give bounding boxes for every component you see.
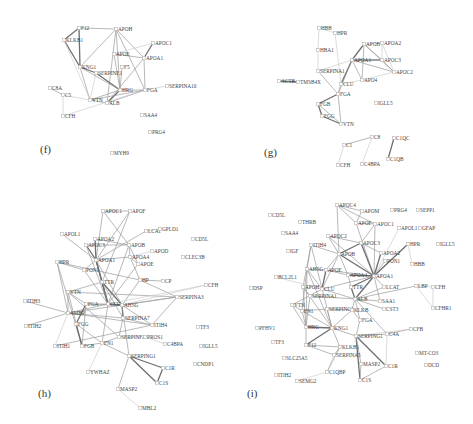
node-label-TMSB4X: TMSB4X bbox=[300, 79, 321, 85]
network-nodes-i: APOC4APOMPRG4SEPP1CD5LTHRBAPOFAPOC1APOL1… bbox=[250, 202, 456, 384]
node-label-CFHR1: CFHR1 bbox=[435, 305, 452, 311]
node-label-GFAP: GFAP bbox=[422, 225, 435, 231]
edge-SERPINA3-ITIH4 bbox=[152, 297, 177, 325]
panel-label-i: (i) bbox=[247, 387, 257, 399]
node-label-APOE: APOE bbox=[328, 267, 342, 273]
network-nodes-f: F12APOHKLKB1APOC1APOEAPOA1KNG1F5SERPINE1… bbox=[49, 25, 197, 156]
node-label-KNG1: KNG1 bbox=[82, 64, 96, 70]
node-label-CLU: CLU bbox=[343, 81, 354, 87]
protein-interaction-networks: F12APOHKLKB1APOC1APOEAPOA1KNG1F5SERPINE1… bbox=[0, 0, 473, 424]
node-label-C1S: C1S bbox=[159, 380, 168, 386]
node-label-FGA: FGA bbox=[147, 87, 158, 93]
node-label-ITIH4: ITIH4 bbox=[154, 322, 168, 328]
node-label-APOB: APOB bbox=[366, 41, 381, 47]
node-label-APOE: APOE bbox=[140, 261, 154, 267]
node-label-APOA1: APOA1 bbox=[98, 257, 115, 263]
node-label-C1S: C1S bbox=[362, 377, 371, 383]
node-label-SEPP1: SEPP1 bbox=[420, 207, 435, 213]
node-label-SAA4: SAA4 bbox=[285, 230, 299, 236]
node-label-KLKB: KLKB bbox=[354, 307, 369, 313]
node-label-APOC4: APOC4 bbox=[339, 202, 356, 208]
node-label-GPLD1: GPLD1 bbox=[162, 226, 179, 232]
edge-APOB-CLU bbox=[108, 245, 129, 304]
edges-layer bbox=[25, 28, 433, 408]
node-label-SERPINF2: SERPINF2 bbox=[121, 334, 145, 340]
node-label-FN1: FN1 bbox=[304, 308, 314, 314]
node-label-FGA: FGA bbox=[88, 301, 99, 307]
node-label-PON1: PON1 bbox=[387, 258, 401, 264]
node-label-C4BPA: C4BPA bbox=[364, 161, 380, 167]
node-label-FN1: FN1 bbox=[104, 340, 114, 346]
edge-APOC4-APOB bbox=[337, 205, 339, 254]
node-label-C1: C1 bbox=[346, 142, 353, 148]
node-label-ITIH4: ITIH4 bbox=[313, 242, 327, 248]
network-nodes-g: HBBHPRAPOBAPOA2HBA1APOA1APOC3APOC2SERPIN… bbox=[278, 25, 414, 168]
panel-label-h: (h) bbox=[38, 387, 51, 399]
node-label-FGB: FGB bbox=[84, 343, 95, 349]
node-label-HPR: HPR bbox=[59, 259, 70, 265]
node-label-MYH9: MYH9 bbox=[114, 150, 129, 156]
node-label-AMBP: AMBP bbox=[70, 310, 85, 316]
node-label-ALB: ALB bbox=[357, 296, 368, 302]
node-label-APOM: APOM bbox=[364, 208, 380, 214]
node-label-DCD: DCD bbox=[428, 362, 439, 368]
panel-label-g: (g) bbox=[264, 146, 277, 158]
node-label-C5: C5 bbox=[65, 92, 72, 98]
node-label-CFB: CFB bbox=[413, 326, 423, 332]
node-label-THRB: THRB bbox=[302, 219, 317, 225]
node-label-AHSG: AHSG bbox=[309, 266, 324, 272]
node-label-ITIH1: ITIH1 bbox=[57, 343, 71, 349]
edge-APOA1-APO4 bbox=[352, 60, 362, 80]
node-label-PFHV1: PFHV1 bbox=[259, 325, 276, 331]
node-label-CLEC3B: CLEC3B bbox=[185, 254, 205, 260]
node-label-CNDP1: CNDP1 bbox=[197, 361, 214, 367]
node-label-VTN: VTN bbox=[70, 289, 81, 295]
node-label-APOA4: APOA4 bbox=[350, 272, 367, 278]
node-label-IGLL5: IGLL5 bbox=[203, 343, 218, 349]
node-label-APOD: APOD bbox=[154, 248, 169, 254]
node-label-SERPINA7: SERPINA7 bbox=[125, 315, 150, 321]
node-label-BCL2L1: BCL2L1 bbox=[278, 274, 297, 280]
node-label-SAA1: SAA1 bbox=[382, 298, 396, 304]
node-label-APOF: APOF bbox=[358, 220, 372, 226]
edge-APOA1-FGA bbox=[144, 58, 145, 90]
node-label-APOC1: APOC1 bbox=[155, 40, 172, 46]
node-label-C1QBP: C1QBP bbox=[329, 369, 346, 375]
edge-SERPING1-MASP2 bbox=[118, 356, 129, 389]
panel-label-f: (f) bbox=[40, 143, 51, 155]
node-label-ITIH2: ITIH2 bbox=[28, 323, 42, 329]
node-label-CP: CP bbox=[165, 278, 172, 284]
node-label-C8A: C8A bbox=[52, 85, 62, 91]
node-label-APOE: APOE bbox=[116, 51, 130, 57]
edge-ITIH1-AMBP bbox=[55, 313, 68, 346]
node-label-KLKB1: KLKB1 bbox=[342, 344, 359, 350]
node-label-DSP: DSP bbox=[253, 285, 263, 291]
node-label-HBB: HBB bbox=[321, 25, 332, 31]
node-label-HPR: HPR bbox=[337, 30, 348, 36]
node-label-HRG: HRG bbox=[122, 87, 133, 93]
edge-SERPING1-C1S bbox=[129, 356, 157, 383]
edge-APOH-FGA bbox=[116, 29, 145, 90]
node-label-APOH: APOH bbox=[305, 284, 320, 290]
node-label-MASP2: MASP2 bbox=[363, 361, 380, 367]
node-label-APOA4: APOA4 bbox=[132, 254, 149, 260]
node-label-ACTB: ACTB bbox=[281, 78, 296, 84]
node-label-FGA: FGA bbox=[362, 317, 373, 323]
node-label-APOA1: APOA1 bbox=[146, 55, 163, 61]
node-label-SERPING1: SERPING1 bbox=[131, 353, 156, 359]
edge-VTN-SERPINA3 bbox=[68, 292, 177, 297]
node-label-SERPINA3: SERPINA3 bbox=[179, 294, 204, 300]
node-label-MASP2: MASP2 bbox=[120, 386, 137, 392]
node-label-F12: F12 bbox=[308, 342, 317, 348]
node-label-KLKB1: KLKB1 bbox=[66, 37, 83, 43]
edge-APOH-KNG1 bbox=[80, 29, 116, 67]
node-label-IGLL5: IGLL5 bbox=[378, 100, 393, 106]
node-label-PRG4: PRG4 bbox=[394, 207, 407, 213]
node-label-FGG: FGG bbox=[78, 321, 89, 327]
node-label-CST3: CST3 bbox=[386, 306, 399, 312]
node-label-SERPINC1: SERPINC1 bbox=[329, 306, 354, 312]
node-label-C4A: C4A bbox=[389, 331, 399, 337]
node-label-MT-CO3: MT-CO3 bbox=[419, 350, 439, 356]
node-label-KNG1: KNG1 bbox=[334, 325, 348, 331]
node-label-APOB: APOB bbox=[341, 251, 356, 257]
